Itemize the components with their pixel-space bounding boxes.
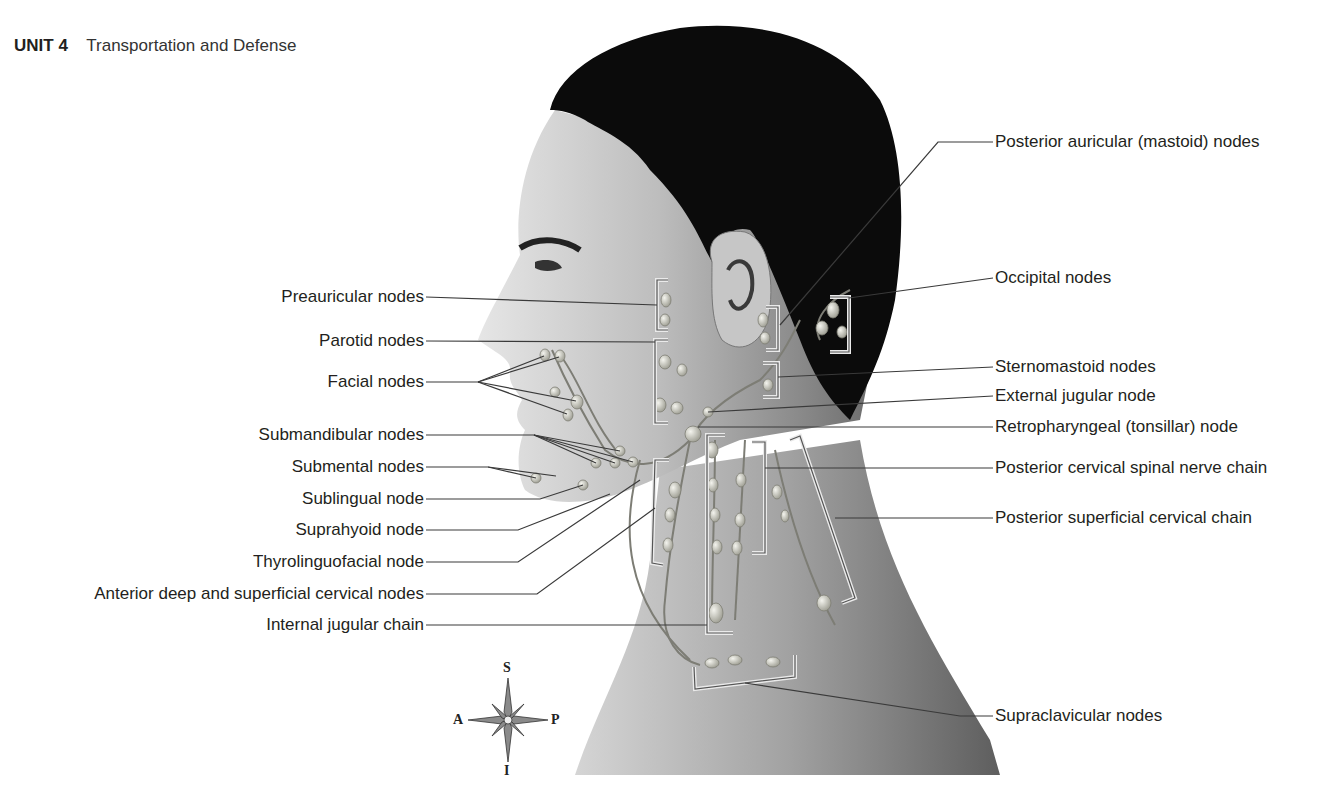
compass-anterior-label: A [453, 712, 463, 728]
orientation-compass: S I A P [450, 660, 570, 780]
label-posterior-superficial-cervical-chain: Posterior superficial cervical chain [995, 508, 1252, 528]
label-retropharyngeal-node: Retropharyngeal (tonsillar) node [995, 417, 1238, 437]
label-sternomastoid-nodes: Sternomastoid nodes [995, 357, 1156, 377]
compass-posterior-label: P [551, 712, 560, 728]
label-suprahyoid-node: Suprahyoid node [295, 520, 424, 540]
compass-superior-label: S [503, 660, 511, 676]
label-parotid-nodes: Parotid nodes [319, 331, 424, 351]
label-preauricular-nodes: Preauricular nodes [281, 287, 424, 307]
label-facial-nodes: Facial nodes [328, 372, 424, 392]
label-submandibular-nodes: Submandibular nodes [259, 425, 424, 445]
label-supraclavicular-nodes: Supraclavicular nodes [995, 706, 1162, 726]
label-external-jugular-node: External jugular node [995, 386, 1156, 406]
label-occipital-nodes: Occipital nodes [995, 268, 1111, 288]
ear-shape [710, 231, 771, 347]
label-internal-jugular-chain: Internal jugular chain [266, 615, 424, 635]
label-anterior-cervical-nodes: Anterior deep and superficial cervical n… [94, 584, 424, 604]
neck-shoulder-shape [575, 440, 1000, 775]
label-posterior-cervical-spinal-nerve-chain: Posterior cervical spinal nerve chain [995, 458, 1267, 478]
label-thyrolinguofacial-node: Thyrolinguofacial node [253, 552, 424, 572]
label-sublingual-node: Sublingual node [302, 489, 424, 509]
label-submental-nodes: Submental nodes [292, 457, 424, 477]
compass-inferior-label: I [504, 763, 509, 779]
label-posterior-auricular-nodes: Posterior auricular (mastoid) nodes [995, 132, 1260, 152]
